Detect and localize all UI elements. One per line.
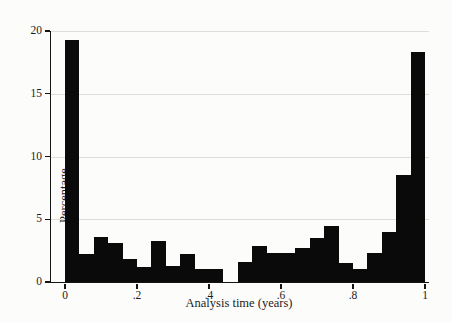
y-gridline — [51, 157, 429, 158]
y-gridline — [51, 219, 429, 220]
histogram-figure: Percentage 051015200.2.4.6.81 Analysis t… — [0, 0, 452, 322]
histogram-bar — [396, 175, 410, 282]
y-axis-tick — [45, 30, 50, 31]
y-axis-tick — [45, 156, 50, 157]
y-axis-tick — [45, 93, 50, 94]
y-axis-tick — [45, 219, 50, 220]
histogram-bar — [324, 226, 338, 282]
histogram-bar — [281, 253, 295, 282]
histogram-bar — [94, 237, 108, 282]
histogram-bar — [411, 52, 425, 282]
histogram-bar — [295, 248, 309, 282]
y-axis-tick — [45, 281, 50, 282]
y-tick-label: 10 — [31, 151, 43, 163]
histogram-bar — [123, 259, 137, 282]
histogram-bar — [382, 232, 396, 282]
histogram-bar — [353, 269, 367, 282]
histogram-bar — [137, 267, 151, 282]
y-tick-label: 0 — [36, 276, 42, 288]
histogram-bar — [166, 266, 180, 282]
y-tick-label: 5 — [36, 214, 42, 226]
histogram-bar — [151, 241, 165, 282]
histogram-bar — [65, 40, 79, 282]
histogram-bar — [79, 254, 93, 282]
histogram-bar — [195, 269, 209, 282]
histogram-bar — [367, 253, 381, 282]
histogram-bar — [339, 263, 353, 282]
y-tick-label: 15 — [31, 88, 43, 100]
histogram-bar — [180, 254, 194, 282]
x-axis-label: Analysis time (years) — [50, 296, 428, 311]
y-gridline — [51, 94, 429, 95]
histogram-bar — [209, 269, 223, 282]
histogram-bar — [238, 262, 252, 282]
plot-area: Percentage 051015200.2.4.6.81 — [50, 31, 429, 283]
histogram-bar — [108, 243, 122, 282]
y-gridline — [51, 31, 429, 32]
histogram-bar — [252, 246, 266, 282]
histogram-bar — [310, 238, 324, 282]
histogram-bar — [267, 253, 281, 282]
y-tick-label: 20 — [31, 25, 43, 37]
